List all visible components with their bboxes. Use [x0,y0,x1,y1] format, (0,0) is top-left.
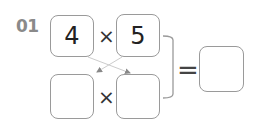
bottom-left-input-box[interactable] [50,74,94,119]
bottom-right-input-box[interactable] [116,74,160,119]
top-right-value: 5 [130,22,145,50]
bracket [163,36,173,98]
top-multiply-sign: × [98,26,115,46]
bottom-multiply-sign: × [98,87,115,107]
top-left-value: 4 [64,22,79,50]
top-right-box: 5 [116,14,160,57]
result-input-box[interactable] [199,46,244,92]
equals-sign: = [177,57,199,83]
cross-arrow-left [97,57,122,72]
top-left-box: 4 [50,15,94,57]
